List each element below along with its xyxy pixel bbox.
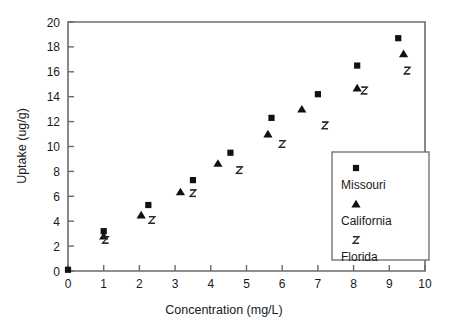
y-tick-label: 6 (53, 190, 60, 204)
legend: MissouriCaliforniaFlorida (332, 152, 429, 264)
y-axis-label: Uptake (ug/g) (15, 108, 29, 184)
data-point (268, 115, 274, 121)
legend-marker-missouri (353, 165, 359, 171)
legend-label-missouri: Missouri (341, 178, 386, 192)
x-tick-label: 10 (418, 277, 432, 291)
x-tick-label: 5 (243, 277, 250, 291)
x-tick-label: 7 (315, 277, 322, 291)
data-point (65, 267, 71, 273)
x-axis-label: Concentration (mg/L) (165, 303, 282, 317)
data-point (395, 35, 401, 41)
y-tick-label: 0 (53, 265, 60, 279)
legend-border (332, 152, 429, 260)
data-point (227, 150, 233, 156)
x-tick-label: 9 (386, 277, 393, 291)
data-point (315, 91, 321, 97)
x-tick-label: 2 (136, 277, 143, 291)
x-tick-label: 8 (350, 277, 357, 291)
data-point (145, 202, 151, 208)
y-tick-label: 12 (47, 115, 61, 129)
y-tick-label: 8 (53, 165, 60, 179)
y-tick-label: 14 (47, 90, 61, 104)
x-tick-label: 1 (100, 277, 107, 291)
plot-canvas: 012345678910 02468101214161820 MissouriC… (0, 0, 449, 325)
y-tick-label: 2 (53, 240, 60, 254)
x-tick-label: 0 (65, 277, 72, 291)
y-tick-label: 20 (47, 16, 61, 30)
data-point (190, 177, 196, 183)
y-tick-label: 18 (47, 40, 61, 54)
x-tick-label: 3 (172, 277, 179, 291)
scatter-plot-figure: 012345678910 02468101214161820 MissouriC… (0, 0, 449, 325)
legend-label-florida: Florida (341, 250, 378, 264)
y-tick-label: 10 (47, 140, 61, 154)
x-tick-label: 6 (279, 277, 286, 291)
y-tick-label: 4 (53, 215, 60, 229)
legend-label-california: California (341, 214, 392, 228)
x-tick-label: 4 (207, 277, 214, 291)
data-point (354, 62, 360, 68)
y-tick-label: 16 (47, 65, 61, 79)
